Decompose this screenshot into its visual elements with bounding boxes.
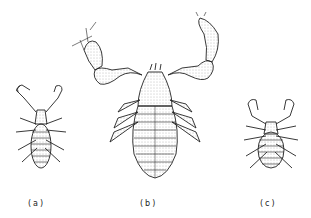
pseudoscorpion-b [72,12,218,178]
panel-label-c: (c) [260,199,277,208]
pseudoscorpion-a [16,85,66,168]
pseudoscorpion-c [244,100,298,169]
panel-label-a: (a) [28,199,45,208]
panel-label-b: (b) [140,199,157,208]
illustration-canvas [0,0,311,218]
